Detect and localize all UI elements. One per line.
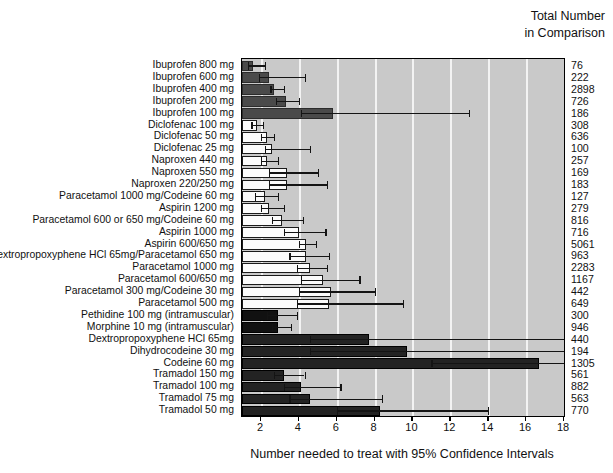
confidence-interval-line (272, 220, 302, 221)
confidence-interval-line (337, 410, 489, 411)
totals-column-header: Total Number in Comparison (524, 8, 605, 42)
confidence-interval-cap-high (327, 265, 328, 272)
confidence-interval-cap-high (305, 74, 306, 81)
plot-area (241, 58, 565, 417)
bar (242, 84, 274, 95)
confidence-interval-line (310, 351, 564, 352)
x-axis-tick-label: 12 (437, 421, 461, 433)
confidence-interval-cap-high (297, 312, 298, 319)
confidence-interval-cap-low (261, 157, 262, 164)
x-axis-tick-label: 6 (324, 421, 348, 433)
confidence-interval-cap-high (340, 384, 341, 391)
confidence-interval-line (255, 196, 278, 197)
confidence-interval-cap-high (318, 169, 319, 176)
confidence-interval-cap-low (265, 146, 266, 153)
confidence-interval-cap-low (299, 241, 300, 248)
confidence-interval-cap-high (488, 407, 489, 414)
confidence-interval-cap-high (305, 372, 306, 379)
confidence-interval-cap-high (469, 110, 470, 117)
confidence-interval-line (284, 387, 341, 388)
confidence-interval-line (297, 303, 403, 304)
confidence-interval-line (267, 315, 297, 316)
confidence-interval-line (284, 232, 326, 233)
confidence-interval-line (251, 125, 262, 126)
confidence-interval-cap-low (297, 300, 298, 307)
confidence-interval-line (276, 101, 299, 102)
confidence-interval-cap-high (329, 253, 330, 260)
confidence-interval-cap-low (251, 122, 252, 129)
x-axis-tick-label: 16 (513, 421, 537, 433)
chart-row (242, 404, 564, 418)
confidence-interval-line (248, 65, 265, 66)
confidence-interval-line (297, 268, 327, 269)
nnt-forest-chart-figure: Total Number in Comparison Ibuprofen 800… (0, 0, 613, 473)
totals-header-line2: in Comparison (524, 25, 605, 42)
category-label: Tramadol 50 mg (159, 403, 234, 417)
confidence-interval-cap-low (301, 110, 302, 117)
confidence-interval-cap-low (337, 407, 338, 414)
x-axis-tick-label: 4 (286, 421, 310, 433)
confidence-interval-cap-low (261, 205, 262, 212)
confidence-interval-cap-low (269, 181, 270, 188)
bar (242, 239, 306, 250)
confidence-interval-cap-high (263, 122, 264, 129)
confidence-interval-cap-high (325, 229, 326, 236)
confidence-interval-line (299, 244, 316, 245)
confidence-interval-cap-high (291, 324, 292, 331)
confidence-interval-line (261, 137, 274, 138)
confidence-interval-cap-high (327, 181, 328, 188)
confidence-interval-cap-low (284, 229, 285, 236)
confidence-interval-cap-high (284, 205, 285, 212)
confidence-interval-cap-high (303, 217, 304, 224)
confidence-interval-cap-low (270, 86, 271, 93)
confidence-interval-cap-low (255, 193, 256, 200)
total-number-value: 770 (571, 403, 589, 417)
confidence-interval-line (269, 172, 318, 173)
confidence-interval-cap-low (248, 62, 249, 69)
confidence-interval-cap-high (316, 241, 317, 248)
confidence-interval-cap-low (284, 384, 285, 391)
confidence-interval-cap-low (272, 324, 273, 331)
x-axis-tick-label: 18 (551, 421, 575, 433)
confidence-interval-line (259, 77, 304, 78)
x-axis-tick-label: 14 (475, 421, 499, 433)
confidence-interval-cap-high (403, 300, 404, 307)
confidence-interval-cap-low (289, 395, 290, 402)
confidence-interval-line (301, 113, 470, 114)
confidence-interval-cap-low (310, 348, 311, 355)
confidence-interval-cap-low (301, 276, 302, 283)
confidence-interval-cap-high (310, 146, 311, 153)
confidence-interval-cap-high (265, 62, 266, 69)
confidence-interval-cap-low (259, 74, 260, 81)
category-label-column: Ibuprofen 800 mgIbuprofen 600 mgIbuprofe… (0, 58, 237, 415)
confidence-interval-cap-high (284, 86, 285, 93)
confidence-interval-line (261, 208, 284, 209)
confidence-interval-cap-high (299, 98, 300, 105)
confidence-interval-line (289, 256, 329, 257)
confidence-interval-line (301, 280, 360, 281)
confidence-interval-cap-high (359, 276, 360, 283)
confidence-interval-cap-low (274, 372, 275, 379)
confidence-interval-line (431, 363, 564, 364)
confidence-interval-cap-high (382, 395, 383, 402)
x-axis-tick-label: 2 (248, 421, 272, 433)
confidence-interval-cap-high (274, 134, 275, 141)
confidence-interval-cap-low (297, 265, 298, 272)
confidence-interval-line (274, 375, 304, 376)
confidence-interval-cap-low (276, 98, 277, 105)
confidence-interval-cap-high (278, 193, 279, 200)
confidence-interval-line (310, 339, 564, 340)
confidence-interval-line (289, 399, 382, 400)
confidence-interval-line (269, 184, 328, 185)
confidence-interval-line (270, 89, 283, 90)
confidence-interval-cap-low (431, 360, 432, 367)
confidence-interval-cap-low (272, 217, 273, 224)
confidence-interval-cap-low (310, 336, 311, 343)
confidence-interval-line (299, 291, 375, 292)
totals-column: 7622228987261863086361002571691831272798… (571, 58, 613, 415)
x-axis-tick-label: 8 (362, 421, 386, 433)
confidence-interval-cap-low (261, 134, 262, 141)
confidence-interval-cap-high (375, 288, 376, 295)
confidence-interval-cap-low (267, 312, 268, 319)
confidence-interval-line (272, 327, 291, 328)
